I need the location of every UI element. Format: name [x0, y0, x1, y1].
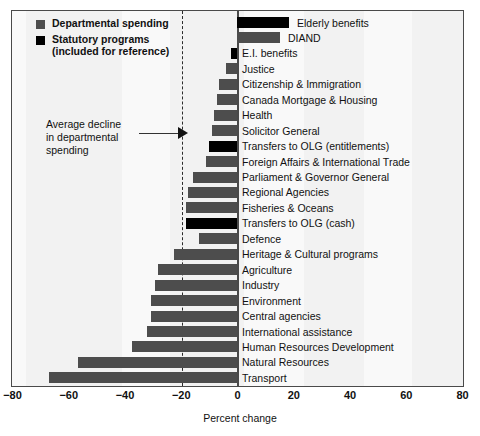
- bar-defence: [199, 233, 237, 244]
- bar-e-i-benefits: [231, 48, 237, 59]
- bar-solicitor-general: [212, 125, 237, 136]
- bar-row: Justice: [12, 62, 463, 76]
- bar-parliament-governor-general: [193, 172, 237, 183]
- bar-row: Environment: [12, 294, 463, 308]
- annotation-line-3: spending: [46, 144, 121, 157]
- bar-row: Central agencies: [12, 310, 463, 324]
- bar-label: Transfers to OLG (cash): [242, 216, 355, 230]
- plot-area: Elderly benefitsDIANDE.I. benefitsJustic…: [11, 10, 464, 387]
- legend-label-departmental: Departmental spending: [52, 17, 169, 30]
- bar-canada-mortgage-housing: [217, 94, 237, 105]
- legend: Departmental spending Statutory programs…: [36, 17, 169, 61]
- bar-label: Elderly benefits: [297, 16, 369, 30]
- bar-label: Canada Mortgage & Housing: [242, 93, 377, 107]
- legend-label-statutory: Statutory programs: [52, 33, 149, 45]
- bar-row: Foreign Affairs & International Trade: [12, 155, 463, 169]
- x-tick-0: 0: [234, 389, 240, 401]
- bar-row: Canada Mortgage & Housing: [12, 93, 463, 107]
- x-tick-neg60: −60: [59, 389, 78, 401]
- bar-citizenship-immigration: [219, 79, 237, 90]
- annotation-line-1: Average decline: [46, 118, 121, 131]
- bar-label: Transfers to OLG (entitlements): [242, 139, 389, 153]
- legend-item-statutory: Statutory programs (included for referen…: [36, 33, 169, 58]
- bar-row: Citizenship & Immigration: [12, 78, 463, 92]
- bar-label: Transport: [242, 371, 287, 385]
- bar-label: Central agencies: [242, 309, 321, 323]
- bar-label: Justice: [242, 62, 275, 76]
- x-axis-label: Percent change: [0, 412, 480, 424]
- bar-elderly-benefits: [237, 17, 289, 28]
- bar-foreign-affairs-international-trade: [206, 156, 237, 167]
- bar-row: Fisheries & Oceans: [12, 201, 463, 215]
- bar-label: Citizenship & Immigration: [242, 77, 361, 91]
- bar-human-resources-development: [132, 341, 237, 352]
- x-tick-40: 40: [344, 389, 356, 401]
- bar-health: [214, 110, 237, 121]
- bar-label: Regional Agencies: [242, 185, 329, 199]
- bar-row: Defence: [12, 232, 463, 246]
- bar-row: Regional Agencies: [12, 186, 463, 200]
- bar-natural-resources: [78, 357, 237, 368]
- bar-heritage-cultural-programs: [174, 249, 237, 260]
- bar-agriculture: [158, 264, 237, 275]
- annotation-arrow-line-icon: [139, 133, 181, 134]
- bar-central-agencies: [151, 311, 237, 322]
- x-tick-neg40: −40: [116, 389, 135, 401]
- bar-row: Parliament & Governor General: [12, 171, 463, 185]
- bar-label: DIAND: [288, 31, 321, 45]
- x-tick-60: 60: [400, 389, 412, 401]
- bar-transfers-to-olg-cash: [186, 218, 237, 229]
- x-tick-neg20: −20: [172, 389, 191, 401]
- bar-label: Defence: [242, 232, 281, 246]
- bar-label: Foreign Affairs & International Trade: [242, 155, 410, 169]
- bar-fisheries-oceans: [186, 202, 237, 213]
- bar-label: Health: [242, 108, 272, 122]
- bar-international-assistance: [147, 326, 237, 337]
- legend-swatch-statutory-icon: [36, 36, 45, 45]
- legend-sublabel-statutory: (included for reference): [52, 45, 169, 57]
- legend-label-statutory-wrap: Statutory programs (included for referen…: [52, 33, 169, 58]
- bar-label: Environment: [242, 294, 301, 308]
- annotation-arrow-head-icon: [178, 127, 188, 139]
- bar-row: Human Resources Development: [12, 340, 463, 354]
- average-decline-annotation: Average decline in departmental spending: [46, 118, 121, 157]
- x-axis-ticks: −80−60−40−20020406080: [11, 389, 464, 409]
- bar-diand: [237, 32, 280, 43]
- legend-swatch-departmental-icon: [36, 20, 45, 29]
- chart-figure: Elderly benefitsDIANDE.I. benefitsJustic…: [0, 0, 480, 436]
- bar-label: Parliament & Governor General: [242, 170, 389, 184]
- x-tick-20: 20: [288, 389, 300, 401]
- bar-label: Solicitor General: [242, 124, 320, 138]
- bar-justice: [226, 63, 237, 74]
- bar-label: International assistance: [242, 325, 352, 339]
- bar-label: Heritage & Cultural programs: [242, 247, 378, 261]
- bar-label: Fisheries & Oceans: [242, 201, 334, 215]
- bar-environment: [151, 295, 237, 306]
- annotation-line-2: in departmental: [46, 131, 121, 144]
- bar-row: Natural Resources: [12, 356, 463, 370]
- bar-label: Natural Resources: [242, 355, 329, 369]
- bar-transport: [49, 372, 237, 383]
- bar-transfers-to-olg-entitlements: [209, 141, 237, 152]
- bar-industry: [155, 280, 237, 291]
- bar-row: Heritage & Cultural programs: [12, 248, 463, 262]
- bar-label: Human Resources Development: [242, 340, 394, 354]
- bar-label: Agriculture: [242, 263, 292, 277]
- bar-row: International assistance: [12, 325, 463, 339]
- bar-rows: Elderly benefitsDIANDE.I. benefitsJustic…: [12, 11, 463, 386]
- x-tick-neg80: −80: [3, 389, 22, 401]
- bar-row: Transfers to OLG (cash): [12, 217, 463, 231]
- bar-row: Transport: [12, 371, 463, 385]
- bar-label: Industry: [242, 278, 279, 292]
- legend-item-departmental: Departmental spending: [36, 17, 169, 30]
- bar-regional-agencies: [188, 187, 237, 198]
- bar-row: Agriculture: [12, 263, 463, 277]
- x-tick-80: 80: [456, 389, 468, 401]
- bar-label: E.I. benefits: [242, 46, 297, 60]
- bar-row: Industry: [12, 279, 463, 293]
